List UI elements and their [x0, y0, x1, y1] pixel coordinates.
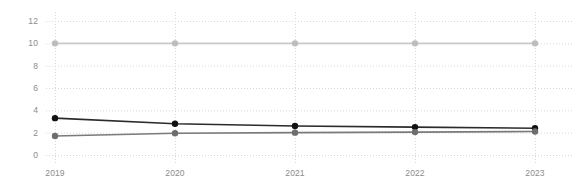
data-point-marker[interactable] [292, 129, 298, 135]
vertical-gridlines [56, 12, 536, 163]
y-axis-tick-label: 10 [0, 39, 38, 48]
x-axis-tick-label: 2022 [405, 169, 424, 178]
line-chart: 024681012 20192020202120222023 [0, 0, 585, 186]
y-axis-tick-label: 8 [0, 61, 38, 70]
data-point-marker[interactable] [532, 40, 538, 46]
data-point-marker[interactable] [172, 40, 178, 46]
data-point-marker[interactable] [412, 129, 418, 135]
x-axis-tick-label: 2021 [285, 169, 304, 178]
data-point-marker[interactable] [412, 40, 418, 46]
x-axis-tick-label: 2020 [165, 169, 184, 178]
data-point-marker[interactable] [532, 128, 538, 134]
y-axis-tick-label: 2 [0, 128, 38, 137]
y-axis-tick-label: 0 [0, 151, 38, 160]
data-point-marker[interactable] [292, 40, 298, 46]
data-point-marker[interactable] [52, 40, 58, 46]
data-point-marker[interactable] [292, 123, 298, 129]
y-axis-tick-label: 6 [0, 84, 38, 93]
data-point-marker[interactable] [172, 121, 178, 127]
horizontal-gridlines [46, 22, 572, 156]
x-axis-tick-label: 2023 [525, 169, 544, 178]
x-axis-tick-label: 2019 [45, 169, 64, 178]
y-axis-tick-label: 12 [0, 17, 38, 26]
data-point-marker[interactable] [52, 115, 58, 121]
chart-plot-area [0, 0, 585, 186]
y-axis-tick-label: 4 [0, 106, 38, 115]
data-point-marker[interactable] [52, 133, 58, 139]
data-point-marker[interactable] [172, 130, 178, 136]
